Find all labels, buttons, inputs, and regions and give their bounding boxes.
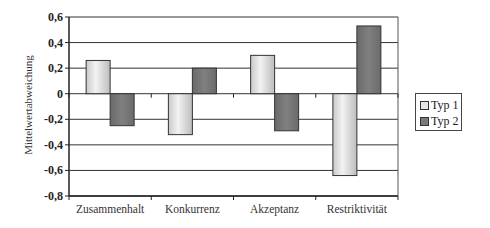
legend-swatch-typ2	[420, 117, 429, 126]
y-tick-label: 0,6	[48, 10, 63, 24]
legend-label: Typ 2	[431, 114, 459, 129]
y-tick-label: 0,2	[48, 61, 63, 75]
y-tick-labels: 0,60,40,20-0,2-0,4-0,6-0,8	[44, 10, 63, 203]
x-category-label: Konkurrenz	[165, 203, 220, 215]
y-tick-label: -0,2	[44, 112, 63, 126]
legend-item-typ1: Typ 1	[420, 97, 461, 113]
bar-typ2-konkurrenz	[192, 68, 216, 94]
bar-typ2-restriktivität	[357, 26, 381, 94]
y-tick-label: -0,8	[44, 189, 63, 203]
legend: Typ 1 Typ 2	[415, 93, 462, 131]
y-tick-label: -0,6	[44, 163, 63, 177]
bar-typ1-akzeptanz	[251, 55, 275, 93]
bar-typ1-konkurrenz	[168, 94, 192, 135]
bars	[86, 26, 381, 176]
y-tick-label: -0,4	[44, 138, 63, 152]
legend-swatch-typ1	[420, 101, 429, 110]
y-axis-label: Mittelwertabweichung	[22, 55, 34, 155]
legend-label: Typ 1	[431, 98, 459, 113]
y-tick-label: 0	[57, 87, 63, 101]
bar-typ2-akzeptanz	[275, 94, 299, 131]
x-category-label: Zusammenhalt	[76, 203, 145, 215]
x-category-labels: ZusammenhaltKonkurrenzAkzeptanzRestrikti…	[76, 203, 388, 216]
bar-typ2-zusammenhalt	[110, 94, 134, 126]
x-category-label: Restriktivität	[327, 203, 388, 215]
y-tick-label: 0,4	[48, 36, 63, 50]
x-category-label: Akzeptanz	[250, 203, 299, 216]
legend-item-typ2: Typ 2	[420, 113, 461, 129]
bar-typ1-restriktivität	[333, 94, 357, 176]
bar-typ1-zusammenhalt	[86, 60, 110, 93]
